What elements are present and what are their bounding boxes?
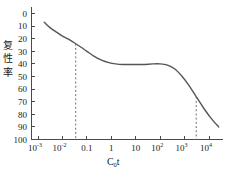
y-tick-label: 10 xyxy=(18,21,28,31)
x-tick-label: 10 xyxy=(131,143,141,153)
x-tick-label: 10-2 xyxy=(52,142,66,152)
x-tick-label: 102 xyxy=(151,142,163,152)
y-tick-label: 40 xyxy=(18,59,28,69)
x-tick-label: 0.1 xyxy=(81,143,92,153)
y-tick-label: 0 xyxy=(23,9,28,19)
y-tick-label: 70 xyxy=(18,97,28,107)
y-tick-label: 100 xyxy=(14,135,28,145)
y-tick-label: 90 xyxy=(18,122,28,132)
y-tick-label: 20 xyxy=(18,34,28,44)
x-tick-label: 103 xyxy=(176,142,188,152)
chart-canvas: 0102030405060708090100复性率10-310-20.11101… xyxy=(0,0,236,182)
x-tick-label: 10-3 xyxy=(28,142,42,152)
x-axis-title: C0t xyxy=(107,156,120,169)
renaturation-chart: 0102030405060708090100复性率10-310-20.11101… xyxy=(0,0,236,182)
x-tick-label: 104 xyxy=(200,142,212,152)
y-axis-title-char: 复 xyxy=(3,39,13,51)
y-axis-title-char: 率 xyxy=(3,66,13,78)
y-axis-title-char: 性 xyxy=(3,52,13,64)
data-curve xyxy=(44,22,218,127)
y-tick-label: 60 xyxy=(18,84,28,94)
y-tick-label: 80 xyxy=(18,110,28,120)
y-tick-label: 50 xyxy=(18,72,28,82)
x-tick-label: 1 xyxy=(109,143,114,153)
y-tick-label: 30 xyxy=(18,47,28,57)
